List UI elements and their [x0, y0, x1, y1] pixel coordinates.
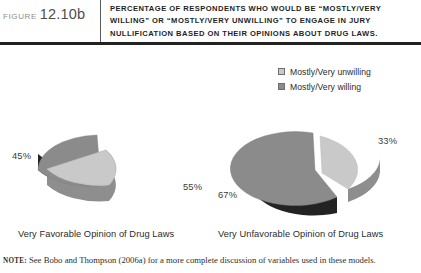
figure-header: FIGURE12.10b PERCENTAGE OF RESPONDENTS W… — [0, 0, 421, 43]
category-label-unfavorable: Very Unfavorable Opinion of Drug Laws — [218, 229, 383, 239]
figure-note-label: NOTE: — [3, 257, 27, 265]
pie-charts-svg — [0, 100, 421, 230]
figure-note-text: See Bobo and Thompson (2006a) for a more… — [29, 255, 376, 265]
pie-chart-unfavorable — [230, 132, 380, 216]
pie-slice-unwilling-top-right — [320, 136, 358, 189]
figure-label-word: FIGURE — [3, 12, 37, 21]
pie-chart-favorable — [38, 135, 116, 201]
legend-swatch-unwilling — [278, 68, 285, 75]
header-horizontal-rule — [0, 42, 421, 45]
figure-number: 12.10b — [40, 6, 86, 22]
legend-label-unwilling: Mostly/Very unwilling — [290, 67, 371, 77]
legend-swatch-willing — [278, 83, 285, 90]
legend-item-willing: Mostly/Very willing — [278, 80, 421, 93]
figure-note: NOTE: See Bobo and Thompson (2006a) for … — [3, 255, 418, 265]
pct-label-unfavorable-willing: 67% — [218, 189, 237, 200]
pct-label-unfavorable-unwilling: 33% — [378, 135, 397, 146]
pct-label-favorable-willing: 45% — [12, 150, 31, 161]
chart-legend: Mostly/Very unwilling Mostly/Very willin… — [278, 65, 421, 95]
figure-tag: FIGURE12.10b — [3, 5, 85, 23]
legend-label-willing: Mostly/Very willing — [290, 82, 361, 92]
pct-label-favorable-unwilling: 55% — [183, 181, 202, 192]
pie-chart-area: 45% 55% 33% 67% — [0, 100, 421, 230]
category-label-favorable: Very Favorable Opinion of Drug Laws — [18, 229, 174, 239]
figure-title: PERCENTAGE OF RESPONDENTS WHO WOULD BE “… — [110, 3, 416, 40]
header-vertical-divider — [100, 0, 101, 42]
legend-item-unwilling: Mostly/Very unwilling — [278, 65, 421, 78]
